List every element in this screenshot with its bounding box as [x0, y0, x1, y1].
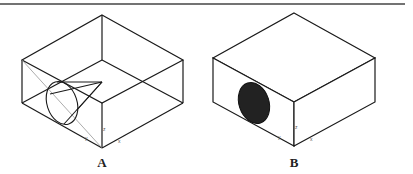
- figure-a-cone: [41, 77, 102, 128]
- figure-canvas: z x y A z x y B: [0, 0, 413, 174]
- figure-a-axis-line: [22, 60, 102, 148]
- figure-b-solid-box: [213, 13, 375, 146]
- figure-a-axis-z: z: [103, 126, 106, 132]
- figure-a-label: A: [97, 155, 107, 170]
- figure-b-axis-x: x: [310, 136, 313, 142]
- figure-a-axis-x: x: [118, 138, 121, 144]
- figure-b-label: B: [290, 155, 299, 170]
